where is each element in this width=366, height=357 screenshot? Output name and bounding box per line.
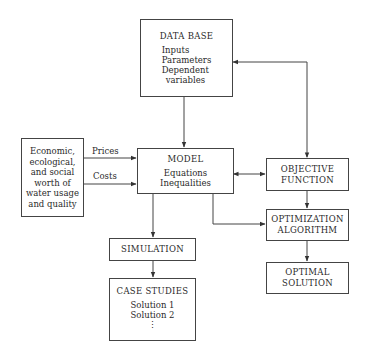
worth-box: Economic, ecological, and social worth o… (21, 138, 84, 217)
optimization-line: OPTIMIZATION (271, 214, 343, 225)
optimal-solution-box: OPTIMAL SOLUTION (266, 262, 349, 294)
case-studies-item: Solution 1 (131, 300, 175, 310)
database-title: DATA BASE (160, 31, 214, 42)
database-box: DATA BASE Inputs Parameters Dependent va… (140, 19, 233, 97)
objective-line: OBJECTIVE (281, 164, 334, 175)
objective-function-box: OBJECTIVE FUNCTION (266, 158, 349, 191)
simulation-box: SIMULATION (109, 238, 196, 261)
case-studies-item: Solution 2 (131, 310, 175, 320)
worth-line: water usage (26, 188, 79, 199)
database-item: Parameters (162, 55, 212, 65)
optimization-line: ALGORITHM (278, 225, 338, 236)
costs-label: Costs (93, 171, 117, 181)
worth-line: and quality (28, 199, 76, 210)
case-studies-box: CASE STUDIES Solution 1 Solution 2 ⋮ (109, 278, 196, 341)
worth-line: ecological, (29, 157, 75, 168)
worth-line: Economic, (30, 146, 75, 157)
arrow-objective-database (233, 62, 307, 157)
worth-line: worth of (34, 178, 70, 189)
database-item: Inputs (162, 45, 190, 55)
model-box: MODEL Equations Inequalities (137, 148, 234, 194)
case-studies-title: CASE STUDIES (117, 286, 189, 297)
model-item: Equations (164, 168, 207, 178)
optimal-line: SOLUTION (282, 278, 333, 289)
optimal-line: OPTIMAL (285, 267, 329, 278)
prices-label: Prices (92, 146, 119, 156)
objective-line: FUNCTION (281, 175, 334, 186)
database-item: Dependent (162, 65, 209, 75)
database-item: variables (162, 75, 205, 85)
case-studies-ellipsis: ⋮ (148, 320, 157, 330)
arrow-model-optimization (213, 193, 265, 224)
simulation-title: SIMULATION (121, 244, 184, 255)
worth-line: and social (31, 167, 74, 178)
model-title: MODEL (168, 154, 204, 165)
optimization-algorithm-box: OPTIMIZATION ALGORITHM (266, 209, 349, 241)
model-item: Inequalities (160, 178, 211, 188)
